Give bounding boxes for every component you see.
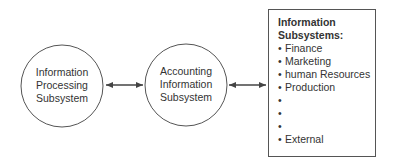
label-line: Subsystem bbox=[22, 92, 102, 105]
bullet-icon: • bbox=[278, 120, 285, 133]
label-line: Subsystem bbox=[146, 91, 226, 104]
list-item: •human Resources bbox=[278, 68, 375, 81]
bullet-icon: • bbox=[278, 94, 285, 107]
list-item: • bbox=[278, 107, 375, 120]
item-label: External bbox=[285, 133, 324, 145]
label-line: Information bbox=[22, 66, 102, 79]
label-line: Accounting bbox=[146, 65, 226, 78]
item-label: Finance bbox=[285, 42, 322, 54]
label-line: Processing bbox=[22, 79, 102, 92]
bullet-icon: • bbox=[278, 133, 285, 146]
subsystem-list: •Finance •Marketing •human Resources •Pr… bbox=[278, 42, 375, 146]
title-line: Information bbox=[278, 16, 375, 29]
item-label: human Resources bbox=[285, 68, 370, 80]
accounting-subsystem-label: Accounting Information Subsystem bbox=[146, 65, 226, 104]
list-item: •Finance bbox=[278, 42, 375, 55]
label-line: Information bbox=[146, 78, 226, 91]
list-item: •External bbox=[278, 133, 375, 146]
list-item: •Marketing bbox=[278, 55, 375, 68]
information-subsystems-box: Information Subsystems: •Finance •Market… bbox=[268, 9, 376, 157]
item-label: Production bbox=[285, 81, 335, 93]
bullet-icon: • bbox=[278, 81, 285, 94]
bullet-icon: • bbox=[278, 42, 285, 55]
title-line: Subsystems: bbox=[278, 29, 375, 42]
item-label: Marketing bbox=[285, 55, 331, 67]
bullet-icon: • bbox=[278, 55, 285, 68]
bullet-icon: • bbox=[278, 107, 285, 120]
list-item: •Production bbox=[278, 81, 375, 94]
bullet-icon: • bbox=[278, 68, 285, 81]
list-item: • bbox=[278, 120, 375, 133]
processing-subsystem-label: Information Processing Subsystem bbox=[22, 66, 102, 105]
box-title: Information Subsystems: bbox=[278, 16, 375, 42]
list-item: • bbox=[278, 94, 375, 107]
